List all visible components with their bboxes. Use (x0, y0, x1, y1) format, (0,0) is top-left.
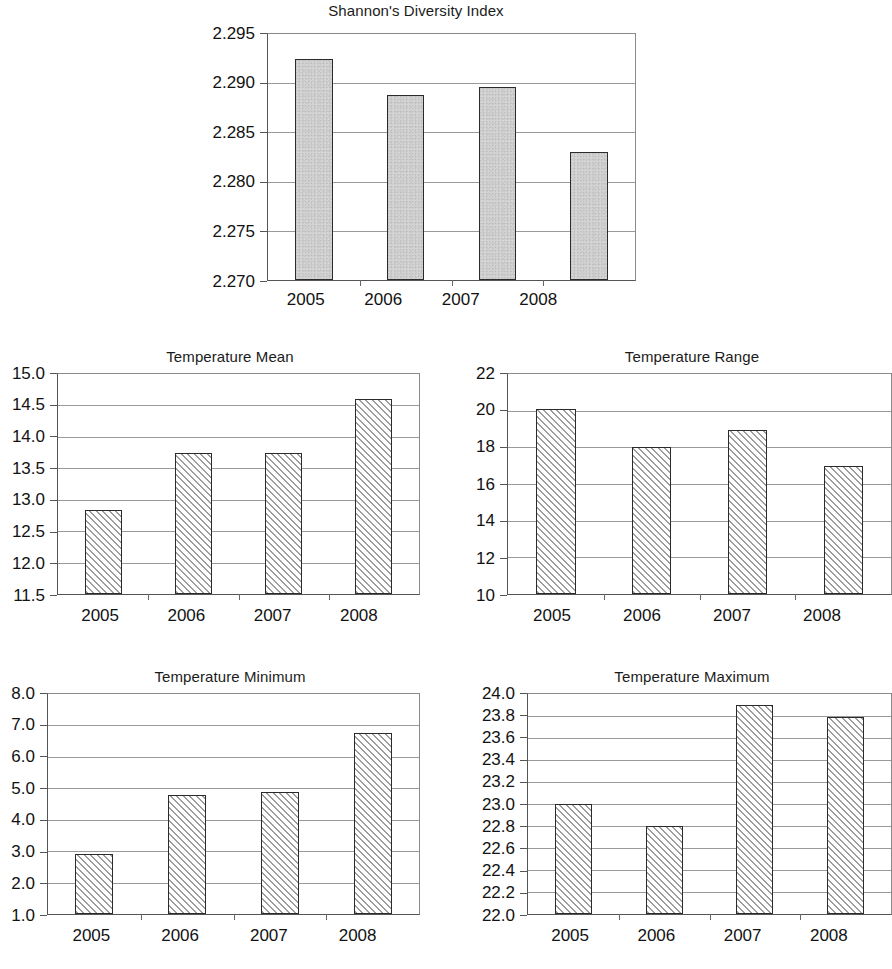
x-tick-label: 2007 (225, 926, 314, 946)
y-tick-mark (260, 231, 267, 232)
bar (387, 95, 425, 280)
y-axis-labels-temp-range: 22201816141210 (462, 373, 500, 595)
bar (295, 59, 333, 280)
bar-series-temp-mean (58, 374, 419, 594)
plot-box-temp-max (527, 693, 892, 915)
x-tick-label: 2008 (786, 926, 872, 946)
x-tick-label: 2008 (313, 926, 402, 946)
y-tick-mark (500, 521, 507, 522)
chart-panel-temp-mean: Temperature Mean 15.014.514.013.513.012.… (0, 348, 420, 648)
y-tick-mark (50, 436, 57, 437)
x-tick-mark (141, 914, 142, 920)
y-tick-mark (520, 915, 527, 916)
y-tick-mark (520, 804, 527, 805)
bar (824, 466, 863, 594)
bar-series-shannon (268, 34, 635, 280)
plot-area-temp-mean: 15.014.514.013.513.012.512.011.5 (0, 373, 420, 595)
x-axis-labels-shannon: 2005200620072008 (267, 290, 577, 310)
x-tick-label: 2006 (613, 926, 699, 946)
plot-area-temp-max: 24.023.823.623.423.223.022.822.622.422.2… (462, 693, 892, 915)
bar (736, 705, 773, 914)
x-axis-ticks-shannon (268, 280, 635, 286)
y-axis-labels-shannon: 2.2952.2902.2852.2802.2752.270 (196, 33, 260, 281)
y-tick-mark (520, 848, 527, 849)
y-tick-mark (500, 484, 507, 485)
bar (632, 447, 671, 594)
bar-slot (58, 374, 148, 594)
x-tick-label: 2006 (143, 606, 229, 626)
x-tick-mark (543, 280, 544, 286)
x-tick-label: 2007 (230, 606, 316, 626)
bar (85, 510, 122, 594)
bar-slot (326, 694, 419, 914)
bar-slot (48, 694, 141, 914)
y-axis-labels-temp-mean: 15.014.514.013.513.012.512.011.5 (0, 373, 50, 595)
y-tick-mark (500, 558, 507, 559)
chart-title-shannon: Shannon's Diversity Index (196, 2, 636, 19)
x-tick-mark (700, 594, 701, 600)
y-tick-mark (40, 915, 47, 916)
x-tick-mark (148, 594, 149, 600)
bar-slot (710, 694, 801, 914)
y-tick-mark (50, 563, 57, 564)
chart-panel-temp-max: Temperature Maximum 24.023.823.623.423.2… (462, 668, 892, 968)
y-tick-mark (520, 893, 527, 894)
x-tick-label: 2005 (47, 926, 136, 946)
x-tick-mark (234, 914, 235, 920)
plot-area-shannon: 2.2952.2902.2852.2802.2752.270 (196, 33, 636, 281)
bar-slot (800, 694, 891, 914)
y-tick-mark (40, 883, 47, 884)
x-tick-mark (326, 914, 327, 920)
x-tick-label: 2007 (687, 606, 777, 626)
bar-slot (452, 34, 544, 280)
plot-area-temp-min: 8.07.06.05.04.03.02.01.0 (0, 693, 420, 915)
plot-box-temp-mean (57, 373, 420, 595)
y-tick-mark (260, 182, 267, 183)
y-axis-labels-temp-max: 24.023.823.623.423.223.022.822.622.422.2… (462, 693, 520, 915)
x-axis-labels-temp-min: 2005200620072008 (47, 926, 402, 946)
y-tick-mark (260, 281, 267, 282)
bar (354, 733, 392, 914)
x-tick-mark (360, 280, 361, 286)
y-tick-mark (260, 132, 267, 133)
y-tick-mark (520, 826, 527, 827)
x-tick-mark (800, 914, 801, 920)
bar (261, 792, 299, 914)
y-axis-ticks-temp-range (500, 373, 507, 595)
bar-slot (148, 374, 238, 594)
bar (75, 854, 113, 914)
plot-box-temp-range (507, 373, 892, 595)
bar (827, 717, 864, 914)
bar (728, 430, 767, 594)
bar-slot (329, 374, 419, 594)
x-tick-label: 2005 (267, 290, 345, 310)
bar-series-temp-range (508, 374, 891, 594)
x-tick-label: 2008 (500, 290, 578, 310)
y-tick-mark (40, 820, 47, 821)
bar (265, 453, 302, 594)
y-tick-mark (520, 737, 527, 738)
chart-title-temp-range: Temperature Range (492, 348, 892, 365)
y-tick-mark (40, 756, 47, 757)
x-tick-label: 2006 (597, 606, 687, 626)
bar-slot (619, 694, 710, 914)
x-tick-label: 2008 (316, 606, 402, 626)
bar (646, 826, 683, 914)
bar-slot (700, 374, 796, 594)
chart-title-temp-mean: Temperature Mean (40, 348, 420, 365)
bar-slot (528, 694, 619, 914)
y-tick-mark (40, 725, 47, 726)
bar-slot (543, 34, 635, 280)
x-tick-label: 2006 (345, 290, 423, 310)
bar-slot (795, 374, 891, 594)
bar-slot (360, 34, 452, 280)
x-tick-mark (710, 914, 711, 920)
chart-panel-shannon: Shannon's Diversity Index 2.2952.2902.28… (196, 0, 636, 330)
chart-panel-temp-range: Temperature Range 22201816141210 2005200… (462, 348, 892, 648)
bar (168, 795, 206, 914)
plot-box-temp-min (47, 693, 420, 915)
bar-slot (141, 694, 234, 914)
bar-slot (604, 374, 700, 594)
bar (555, 804, 592, 914)
x-tick-label: 2007 (422, 290, 500, 310)
